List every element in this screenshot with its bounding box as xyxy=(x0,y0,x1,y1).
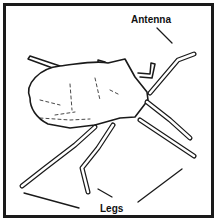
insect-illustration xyxy=(0,0,217,220)
diagram-frame: Antenna Legs xyxy=(0,0,217,220)
legs-label: Legs xyxy=(100,203,123,214)
antenna-pointer-line xyxy=(157,28,172,43)
antenna-label: Antenna xyxy=(131,14,171,25)
